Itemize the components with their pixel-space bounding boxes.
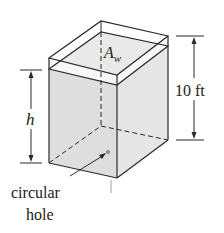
hole-label-line2: hole — [26, 206, 54, 223]
height-arrow-down-icon — [192, 132, 197, 139]
tank-diagram: Aw h 10 ft circular hole — [0, 0, 224, 233]
water-front-face — [49, 69, 117, 178]
h-arrow-up-icon — [29, 71, 34, 78]
hole-label-line1: circular — [11, 184, 61, 201]
height-arrow-up-icon — [192, 37, 197, 44]
h-arrow-down-icon — [29, 155, 34, 162]
h-label: h — [26, 110, 35, 129]
tank-height-label: 10 ft — [175, 82, 205, 99]
circular-hole-icon — [106, 150, 109, 153]
area-subscript: w — [114, 52, 122, 64]
